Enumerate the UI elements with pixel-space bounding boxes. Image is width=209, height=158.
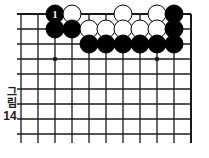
stone-move-number: 1 (53, 9, 58, 19)
go-diagram-figure: 1 그림 14 (0, 0, 209, 158)
figure-caption: 그림 14 (1, 86, 19, 122)
figure-caption-number: 14 (3, 110, 16, 122)
star-point-2 (155, 57, 159, 61)
stone-black-c10r3[interactable] (165, 35, 184, 54)
figure-caption-label: 그림 (4, 86, 16, 108)
star-point-1 (53, 57, 57, 61)
